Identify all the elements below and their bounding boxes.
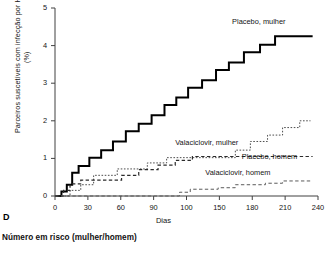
series-label: Valaciclovir, homem bbox=[205, 168, 270, 177]
series-line bbox=[55, 36, 313, 196]
x-tick-label: 100 bbox=[175, 203, 199, 212]
x-tick-label: 240 bbox=[306, 203, 327, 212]
y-tick-label: 0 bbox=[33, 191, 47, 200]
x-tick-label: 60 bbox=[109, 203, 133, 212]
series-label: Valaciclovir, mulher bbox=[175, 138, 238, 147]
x-tick-label: 0 bbox=[43, 203, 67, 212]
chart-figure: Parceiros suscetíveis com infecção por H… bbox=[0, 0, 327, 253]
y-tick-label: 5 bbox=[33, 3, 47, 12]
y-tick-label: 2 bbox=[33, 116, 47, 125]
y-tick-label: 3 bbox=[33, 78, 47, 87]
series-label: Placebo, mulher bbox=[232, 17, 285, 26]
x-tick-label: 150 bbox=[207, 203, 231, 212]
x-tick-label: 180 bbox=[240, 203, 264, 212]
y-tick-label: 1 bbox=[33, 153, 47, 162]
y-tick-label: 4 bbox=[33, 41, 47, 50]
x-tick-label: 30 bbox=[76, 203, 100, 212]
x-tick-label: 210 bbox=[273, 203, 297, 212]
x-tick-label: 90 bbox=[142, 203, 166, 212]
series-label: Placebo, homem bbox=[242, 152, 297, 161]
plot-canvas bbox=[0, 0, 327, 253]
